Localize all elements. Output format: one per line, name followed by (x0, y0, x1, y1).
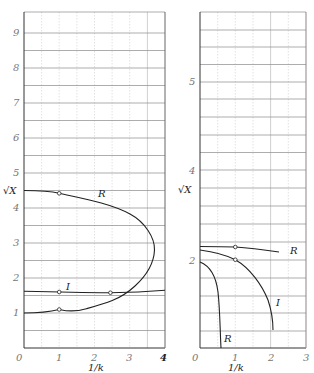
left-xtick: 4 (160, 352, 167, 363)
data-point (234, 258, 238, 262)
left-xlabel: 1/k (88, 362, 104, 373)
left-xtick: 3 (126, 352, 132, 363)
data-point (57, 192, 61, 196)
right-xlabel: 1/k (228, 362, 244, 373)
right-ytick: 4 (188, 165, 195, 176)
data-point (234, 245, 238, 249)
right-ytick: 2 (188, 255, 195, 266)
left-ytick: 2 (12, 272, 19, 283)
left-curve-R (24, 191, 155, 314)
right-panel: 2 4 5 √X 0 1 2 3 1/k R I R (178, 12, 309, 373)
figure: 1 2 3 4 5 6 7 8 9 √X 0 1 2 3 4 1/k R I (0, 0, 314, 373)
left-panel: 1 2 3 4 5 6 7 8 9 √X 0 1 2 3 4 1/k R I (3, 12, 167, 373)
right-xtick: 3 (303, 352, 309, 363)
label-R: R (97, 188, 106, 199)
left-ytick: 4 (12, 202, 19, 213)
left-vgrid (42, 12, 148, 348)
label-R-upper: R (289, 245, 298, 256)
right-curve-R-lower (200, 262, 221, 348)
left-ylabel: √X (3, 185, 17, 196)
left-ytick: 8 (13, 62, 19, 73)
left-ytick: 9 (13, 27, 20, 38)
label-R-lower: R (223, 333, 232, 344)
left-xtick: 0 (16, 352, 23, 363)
right-xtick: 2 (267, 352, 274, 363)
right-curve-R-upper (200, 247, 279, 253)
data-point (109, 291, 113, 295)
right-ylabel: √X (178, 184, 192, 195)
label-I: I (275, 297, 281, 308)
right-curve-I (200, 250, 273, 330)
right-ytick: 5 (189, 76, 195, 87)
data-point (57, 290, 61, 294)
left-ytick: 1 (13, 307, 19, 318)
label-I: I (65, 281, 71, 292)
right-xtick: 0 (192, 352, 199, 363)
left-xtick: 1 (56, 352, 62, 363)
left-ytick: 6 (13, 132, 20, 143)
data-point (57, 308, 61, 312)
left-ytick: 7 (13, 97, 20, 108)
left-ytick: 3 (13, 237, 19, 248)
left-ytick: 5 (13, 167, 19, 178)
